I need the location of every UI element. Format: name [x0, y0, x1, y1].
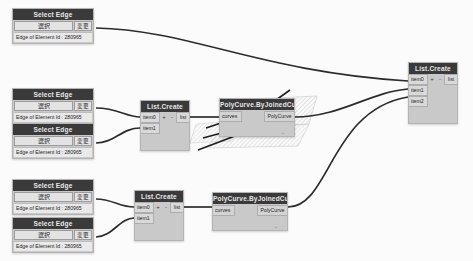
- polycurve-byjoinedcurves-node[interactable]: PolyCurve.ByJoinedCurves curves PolyCurv…: [212, 192, 288, 231]
- select-edge-node[interactable]: Select Edge 選択 変更 Edge of Element Id : 2…: [12, 88, 94, 124]
- select-button[interactable]: 選択: [14, 136, 73, 146]
- list-create-node[interactable]: List.Create item0 + - list item1 item2: [408, 62, 458, 124]
- output-port-polycurve[interactable]: PolyCurve: [264, 111, 294, 122]
- node-tail: [141, 134, 189, 150]
- wire-se4-to-listbottom-item0: [96, 199, 134, 207]
- output-port-polycurve[interactable]: PolyCurve: [257, 205, 287, 216]
- node-title: List.Create: [135, 191, 183, 202]
- input-port-item1[interactable]: item1: [409, 85, 428, 96]
- output-port-list[interactable]: list: [176, 112, 189, 123]
- port-row: item1: [141, 123, 189, 134]
- wire-polycurvebottom-to-listright-item2: [288, 97, 408, 207]
- port-row: item0 + - list: [409, 74, 457, 85]
- node-tail: [135, 224, 183, 240]
- remove-item-button[interactable]: -: [162, 203, 170, 212]
- chevron-down-icon: ⌄: [274, 223, 278, 229]
- node-body: item0 + - list item1 item2: [409, 74, 457, 123]
- change-button[interactable]: 変更: [74, 192, 92, 202]
- input-port-curves[interactable]: curves: [213, 205, 235, 216]
- change-button[interactable]: 変更: [74, 21, 92, 31]
- wire-se3-to-listmid-item1: [96, 128, 140, 143]
- select-edge-node[interactable]: Select Edge 選択 変更 Edge of Element Id : 2…: [12, 179, 94, 215]
- node-title: PolyCurve.ByJoinedCurves: [213, 193, 287, 204]
- port-row: item0 + - list: [135, 202, 183, 213]
- node-tail: [409, 107, 457, 123]
- select-edge-node[interactable]: Select Edge 選択 変更 Edge of Element Id : 2…: [12, 8, 94, 44]
- output-port-list[interactable]: list: [444, 74, 457, 85]
- output-port-list[interactable]: list: [170, 202, 183, 213]
- node-body: item0 + - list item1: [135, 202, 183, 240]
- change-button[interactable]: 変更: [74, 230, 92, 240]
- port-row: item2: [409, 96, 457, 107]
- node-body: item0 + - list item1: [141, 112, 189, 150]
- port-row: item0 + - list: [141, 112, 189, 123]
- select-edge-row: 選択 変更: [13, 20, 93, 31]
- node-title: PolyCurve.ByJoinedCurves: [220, 99, 294, 110]
- list-create-node[interactable]: List.Create item0 + - list item1: [140, 100, 190, 151]
- select-edge-node[interactable]: Select Edge 選択 変更 Edge of Element Id : 2…: [12, 217, 94, 253]
- select-button[interactable]: 選択: [14, 21, 73, 31]
- select-button[interactable]: 選択: [14, 101, 73, 111]
- list-create-node[interactable]: List.Create item0 + - list item1: [134, 190, 184, 241]
- add-item-button[interactable]: +: [154, 203, 162, 212]
- select-button[interactable]: 選択: [14, 230, 73, 240]
- port-row: item1: [409, 85, 457, 96]
- select-edge-row: 選択 変更: [13, 135, 93, 146]
- select-button[interactable]: 選択: [14, 192, 73, 202]
- input-port-curves[interactable]: curves: [220, 111, 242, 122]
- node-title: Select Edge: [13, 9, 93, 20]
- input-port-item2[interactable]: item2: [409, 96, 428, 107]
- node-title: Select Edge: [13, 89, 93, 100]
- node-title: List.Create: [409, 63, 457, 74]
- port-row: curves PolyCurve: [213, 205, 287, 216]
- element-id-caption: Edge of Element Id : 280965: [14, 32, 92, 42]
- port-row: curves PolyCurve: [220, 111, 294, 122]
- input-port-item0[interactable]: item0: [409, 74, 428, 85]
- input-port-item1[interactable]: item1: [135, 213, 154, 224]
- port-row: item1: [135, 213, 183, 224]
- select-edge-row: 選択 変更: [13, 191, 93, 202]
- select-edge-node[interactable]: Select Edge 選択 変更 Edge of Element Id : 2…: [12, 123, 94, 159]
- dynamo-graph-canvas[interactable]: Select Edge 選択 変更 Edge of Element Id : 2…: [0, 0, 473, 261]
- node-tail: ⌄: [220, 122, 294, 136]
- element-id-caption: Edge of Element Id : 280965: [14, 241, 92, 251]
- remove-item-button[interactable]: -: [436, 75, 444, 84]
- node-title: Select Edge: [13, 180, 93, 191]
- change-button[interactable]: 変更: [74, 101, 92, 111]
- remove-item-button[interactable]: -: [168, 113, 176, 122]
- wire-polycurvemid-to-listright-item1: [295, 89, 408, 117]
- wire-se5-to-listbottom-item1: [96, 218, 134, 237]
- polycurve-byjoinedcurves-node[interactable]: PolyCurve.ByJoinedCurves curves PolyCurv…: [219, 98, 295, 137]
- element-id-caption: Edge of Element Id : 280965: [14, 147, 92, 157]
- input-port-item0[interactable]: item0: [141, 112, 160, 123]
- select-edge-row: 選択 変更: [13, 100, 93, 111]
- chevron-down-icon: ⌄: [281, 129, 285, 135]
- element-id-caption: Edge of Element Id : 280965: [14, 203, 92, 213]
- node-title: Select Edge: [13, 218, 93, 229]
- input-port-item1[interactable]: item1: [141, 123, 160, 134]
- node-title: List.Create: [141, 101, 189, 112]
- add-item-button[interactable]: +: [160, 113, 168, 122]
- node-tail: ⌄: [213, 216, 287, 230]
- wire-se1-to-listright-item0: [96, 28, 408, 81]
- node-title: Select Edge: [13, 124, 93, 135]
- change-button[interactable]: 変更: [74, 136, 92, 146]
- wire-se2-to-listmid-item0: [96, 108, 140, 117]
- add-item-button[interactable]: +: [428, 75, 436, 84]
- select-edge-row: 選択 変更: [13, 229, 93, 240]
- input-port-item0[interactable]: item0: [135, 202, 154, 213]
- element-id-caption: Edge of Element Id : 280965: [14, 112, 92, 122]
